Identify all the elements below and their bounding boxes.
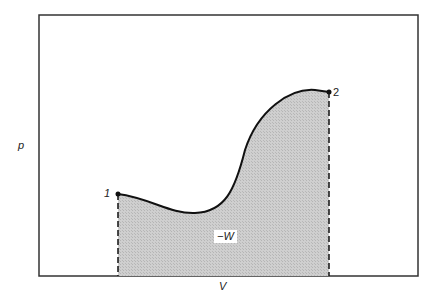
work-area	[118, 90, 329, 276]
pv-diagram	[0, 0, 436, 305]
point-1-label: 1	[104, 187, 110, 199]
point-1-marker	[116, 192, 121, 197]
x-axis-label: V	[219, 280, 226, 292]
point-2-label: 2	[333, 86, 339, 98]
y-axis-label: p	[18, 139, 24, 151]
point-2-marker	[327, 90, 332, 95]
work-label: −W	[214, 230, 237, 243]
